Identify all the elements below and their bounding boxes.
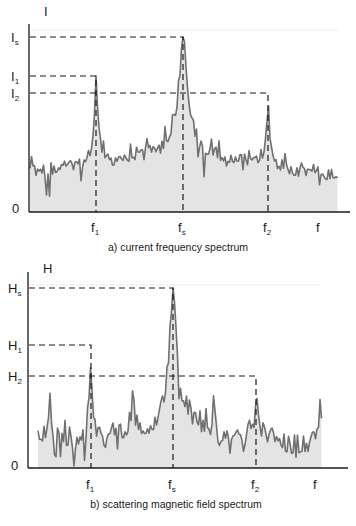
y-axis-label: H: [43, 261, 52, 276]
x-axis-label: f: [313, 477, 317, 492]
signal-area: [30, 37, 338, 212]
panel-magnetic-spectrum: H Hs H1 H2 0 f1 fs f2 f b) scattering ma…: [8, 261, 348, 510]
panel-caption: b) scattering magnetic field spectrum: [90, 498, 262, 510]
y-axis-label: I: [44, 4, 48, 19]
origin-label: 0: [11, 458, 18, 473]
origin-label: 0: [12, 201, 19, 216]
x-mark-label-f2: f2: [263, 220, 272, 237]
x-mark-label-f1: f1: [91, 220, 100, 237]
spectrum-figure: I Is I1 I2 0 f1 fs f2 f a) current frequ…: [0, 0, 356, 526]
x-axis-label: f: [316, 220, 320, 235]
panel-caption: a) current frequency spectrum: [108, 241, 248, 253]
level-label-I2: I2: [11, 86, 20, 103]
level-label-H2: H2: [8, 369, 22, 386]
x-mark-label-fs: fs: [178, 220, 186, 237]
level-label-Hs: Hs: [8, 281, 21, 298]
panel-current-spectrum: I Is I1 I2 0 f1 fs f2 f a) current frequ…: [11, 4, 350, 253]
x-mark-label-f1: f1: [86, 477, 95, 494]
level-label-I1: I1: [11, 69, 20, 86]
level-label-H1: H1: [8, 338, 22, 355]
signal-area: [38, 288, 322, 468]
x-mark-label-f2: f2: [251, 477, 260, 494]
level-label-Is: Is: [11, 30, 19, 47]
x-mark-label-fs: fs: [168, 477, 176, 494]
